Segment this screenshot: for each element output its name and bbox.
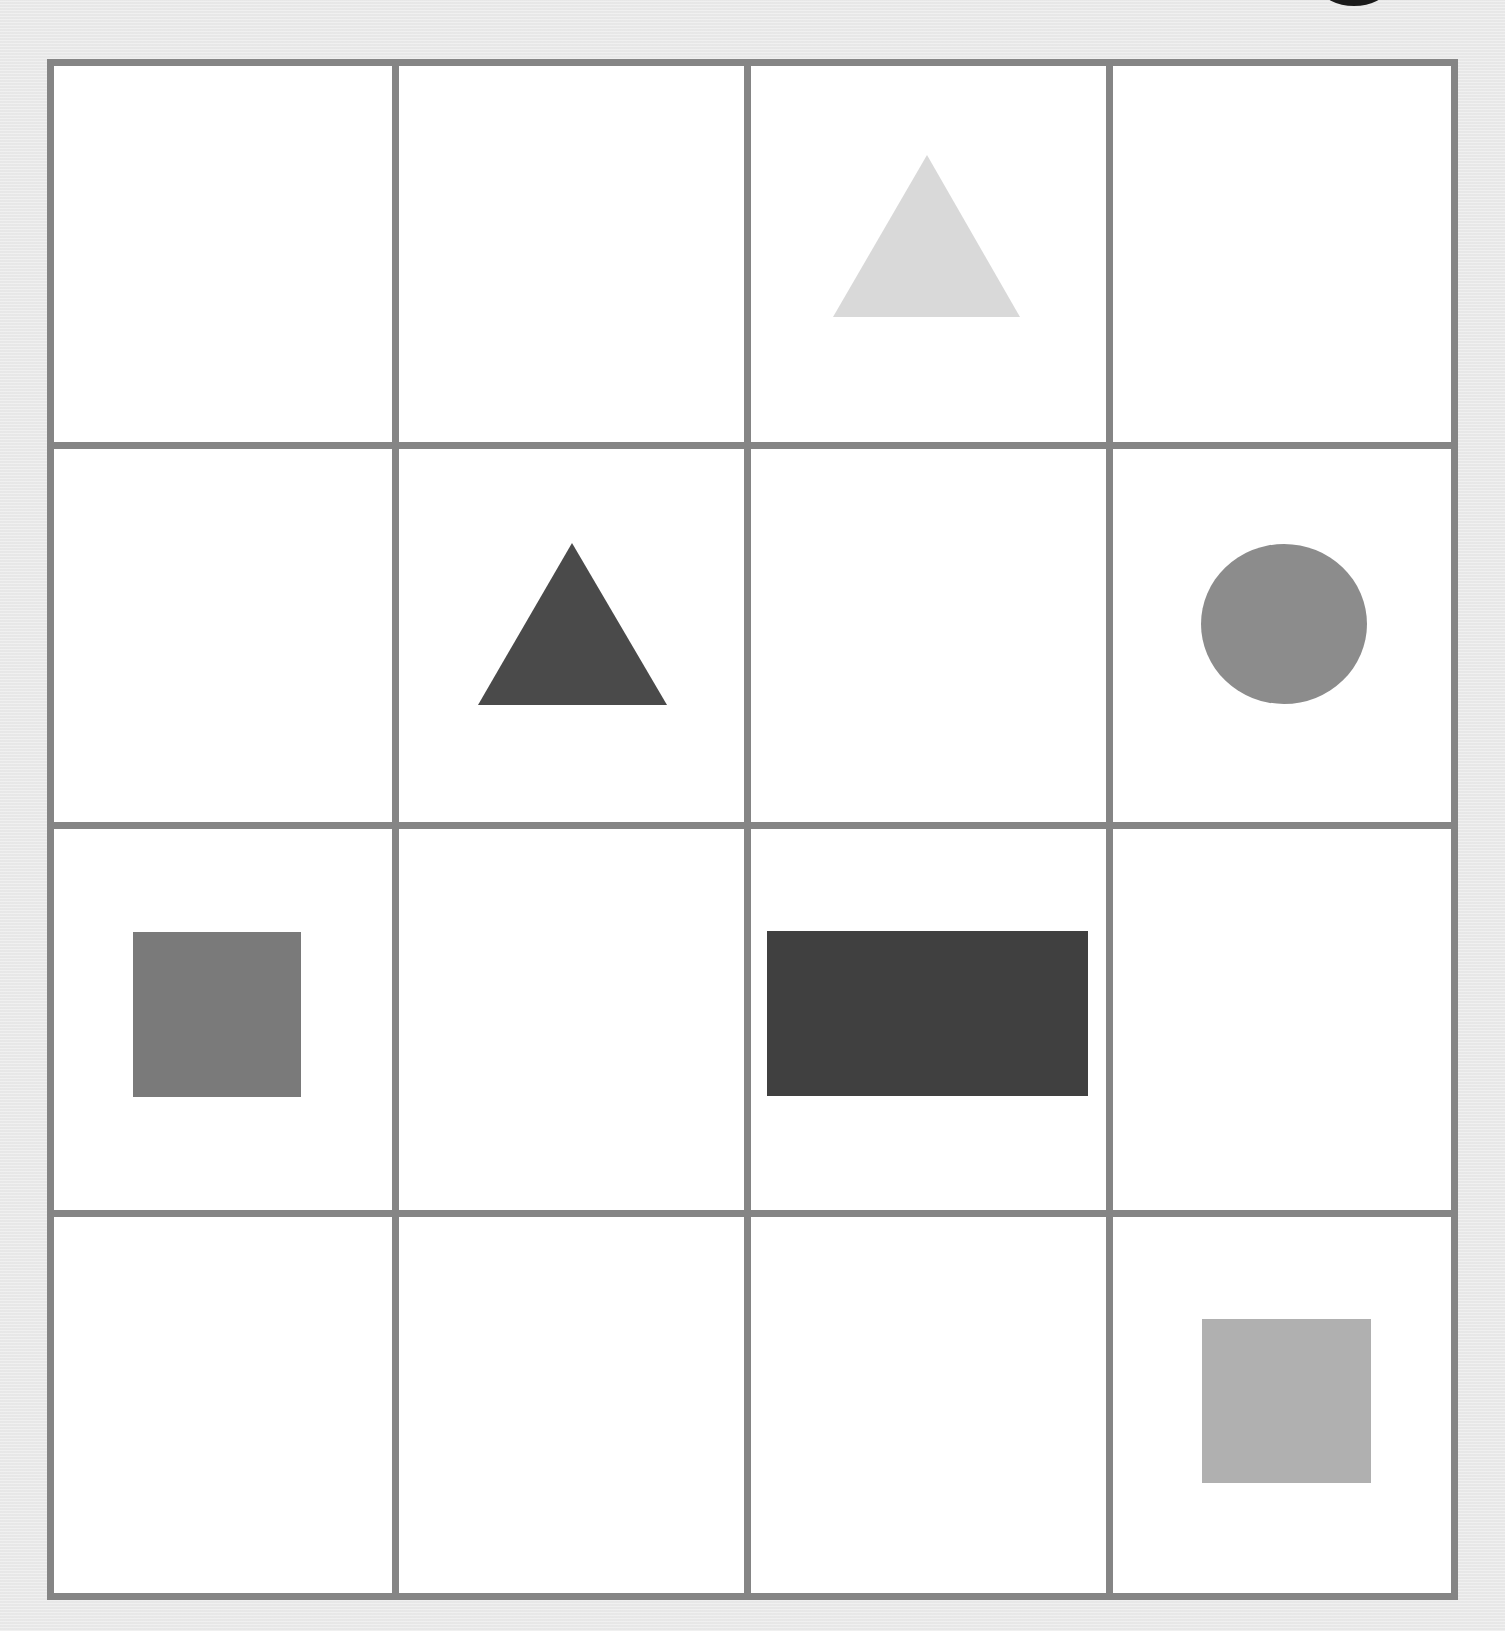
shape-grid (0, 0, 1505, 1631)
square-shape-r2c0 (133, 932, 301, 1097)
grid-column-line-4 (1451, 59, 1458, 1600)
grid-row-line-3 (47, 1210, 1458, 1217)
square-shape-r3c3 (1202, 1319, 1371, 1483)
grid-column-line-0 (47, 59, 54, 1600)
rectangle-shape-r2c2 (767, 931, 1088, 1096)
grid-row-line-0 (47, 59, 1458, 66)
grid-row-line-1 (47, 442, 1458, 449)
grid-row-line-2 (47, 822, 1458, 829)
grid-column-line-3 (1106, 59, 1113, 1600)
circle-shape-r1c3 (1201, 544, 1367, 704)
grid-row-line-4 (47, 1593, 1458, 1600)
grid-column-line-1 (392, 59, 399, 1600)
grid-column-line-2 (744, 59, 751, 1600)
